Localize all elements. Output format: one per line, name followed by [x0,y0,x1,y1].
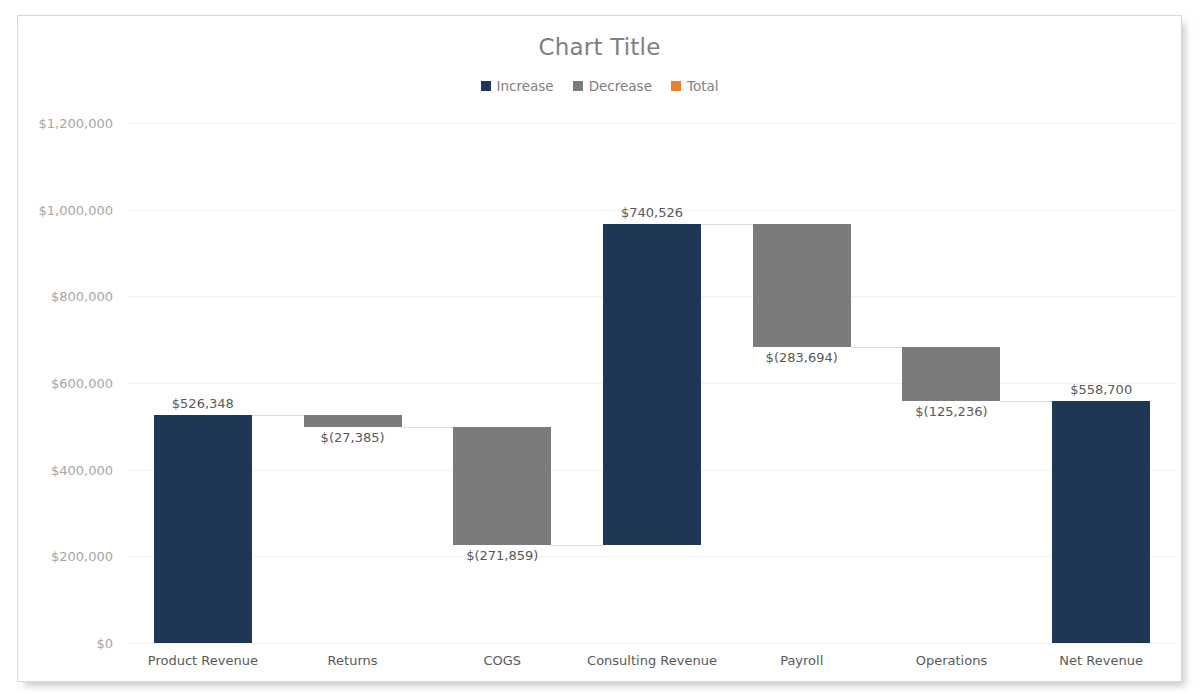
x-axis-tick-consulting-revenue: Consulting Revenue [587,653,717,668]
connector-3 [701,224,753,225]
y-axis-tick-0: $0 [0,636,113,651]
y-axis-tick-6: $1,200,000 [0,116,113,131]
bar-label-cogs: $(271,859) [466,548,538,563]
bar-payroll[interactable] [753,224,851,347]
bar-operations[interactable] [902,347,1000,401]
x-axis-tick-net-revenue: Net Revenue [1059,653,1143,668]
bar-consulting-revenue[interactable] [603,224,701,545]
bar-label-payroll: $(283,694) [766,350,838,365]
chart-frame[interactable]: Chart Title Increase Decrease Total $0$2… [17,15,1182,682]
connector-0 [252,415,304,416]
connector-5 [1000,401,1052,402]
x-axis-tick-operations: Operations [916,653,987,668]
gridline-0 [128,643,1176,644]
gridline-6 [128,123,1176,124]
x-axis-tick-payroll: Payroll [780,653,823,668]
connector-4 [851,347,903,348]
bar-label-consulting-revenue: $740,526 [621,205,683,220]
bar-label-operations: $(125,236) [915,404,987,419]
y-axis-tick-1: $200,000 [0,549,113,564]
bar-returns[interactable] [304,415,402,427]
bar-label-product-revenue: $526,348 [172,396,234,411]
bar-cogs[interactable] [453,427,551,545]
bar-net-revenue[interactable] [1052,401,1150,643]
bar-label-net-revenue: $558,700 [1070,382,1132,397]
y-axis-tick-2: $400,000 [0,462,113,477]
x-axis-tick-cogs: COGS [483,653,521,668]
gridline-1 [128,556,1176,557]
connector-2 [551,545,603,546]
bar-product-revenue[interactable] [154,415,252,643]
y-axis-tick-5: $1,000,000 [0,202,113,217]
y-axis-tick-3: $600,000 [0,376,113,391]
x-axis-tick-product-revenue: Product Revenue [148,653,258,668]
connector-1 [402,427,454,428]
y-axis-tick-4: $800,000 [0,289,113,304]
plot-area[interactable]: $0$200,000$400,000$600,000$800,000$1,000… [18,16,1181,681]
bar-label-returns: $(27,385) [321,430,385,445]
x-axis-tick-returns: Returns [328,653,378,668]
